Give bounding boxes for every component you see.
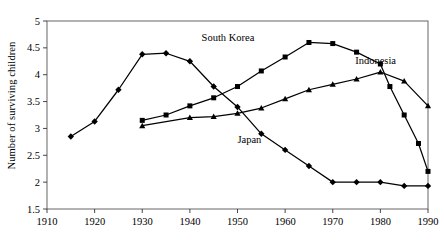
x-axis-tick-label: 1950 [227,216,248,227]
data-point-marker-square [164,113,169,118]
y-axis-tick-label: 2 [35,177,40,188]
x-axis-tick-label: 1980 [370,216,391,227]
y-axis-tick-label: 4.5 [27,42,40,53]
data-point-marker-diamond [353,179,359,185]
x-axis-tick-label: 1920 [84,216,105,227]
x-axis-tick-label: 1940 [179,216,200,227]
data-point-marker-square [235,84,240,89]
y-axis-tick-label: 3.5 [27,96,40,107]
series-label-japan: Japan [237,134,262,145]
data-point-marker-square [211,95,216,100]
line-chart-plot: 1.522.533.544.55191019201930194019501960… [0,0,444,250]
x-axis-tick-label: 1960 [275,216,296,227]
data-point-marker-diamond [163,50,169,56]
data-point-marker-diamond [425,183,431,189]
x-axis-tick-label: 1990 [418,216,439,227]
x-axis-tick-label: 1970 [322,216,343,227]
data-point-marker-square [387,84,392,89]
data-point-marker-square [259,68,264,73]
data-point-marker-square [306,40,311,45]
x-axis-tick-label: 1910 [37,216,58,227]
data-point-marker-square [187,103,192,108]
x-axis-tick-label: 1930 [132,216,153,227]
data-point-marker-square [283,54,288,59]
chart-figure: Number of surviving children 1.522.533.5… [0,0,444,250]
data-point-marker-diamond [68,133,74,139]
y-axis-tick-label: 2.5 [27,150,40,161]
data-point-marker-square [140,118,145,123]
y-axis-tick-label: 1.5 [27,204,40,215]
data-point-marker-square [416,141,421,146]
y-axis-tick-label: 3 [35,123,40,134]
series-label-indonesia: Indonesia [355,55,396,66]
data-point-marker-square [354,50,359,55]
data-point-marker-square [402,113,407,118]
y-axis-tick-label: 4 [35,69,41,80]
data-point-marker-square [426,169,431,174]
data-point-marker-square [330,41,335,46]
data-point-marker-diamond [377,179,383,185]
data-point-marker-diamond [401,183,407,189]
y-axis-tick-label: 5 [35,16,40,27]
series-label-south-korea: South Korea [202,32,255,43]
